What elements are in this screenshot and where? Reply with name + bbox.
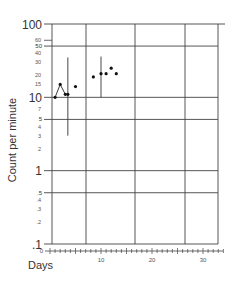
data-point xyxy=(92,75,95,78)
y-tick-label: 1 xyxy=(35,164,42,178)
x-tick-label: 0 xyxy=(40,248,44,254)
y-minor-tick-label: .2 xyxy=(36,219,41,225)
y-minor-tick-label: 7 xyxy=(38,106,41,112)
data-point xyxy=(110,67,113,70)
chart-plot: 100501051.5.160403020157432.4.3.20102030 xyxy=(0,0,234,281)
data-point xyxy=(99,72,102,75)
y-minor-tick-label: 4 xyxy=(38,124,41,130)
data-point xyxy=(74,85,77,88)
y-minor-tick-label: 20 xyxy=(35,72,41,78)
y-minor-tick-label: 40 xyxy=(35,50,41,56)
y-tick-label: 5 xyxy=(39,116,43,122)
y-tick-label: .5 xyxy=(37,190,43,196)
x-axis-label: Days xyxy=(28,259,53,271)
data-point xyxy=(115,72,118,75)
x-tick-label: 20 xyxy=(149,257,156,263)
x-tick-label: 30 xyxy=(200,257,207,263)
data-point xyxy=(59,83,62,86)
y-minor-tick-label: 60 xyxy=(35,37,41,43)
y-tick-label: 10 xyxy=(29,91,43,105)
x-tick-label: 10 xyxy=(98,257,105,263)
y-minor-tick-label: 15 xyxy=(35,81,41,87)
y-tick-label: 100 xyxy=(22,18,42,32)
y-axis-label-text: Count per minute xyxy=(6,98,18,182)
y-minor-tick-label: .4 xyxy=(36,197,41,203)
y-minor-tick-label: 2 xyxy=(38,146,41,152)
data-point xyxy=(54,96,57,99)
y-axis-label: Count per minute xyxy=(3,70,21,210)
y-minor-tick-label: .3 xyxy=(36,206,41,212)
data-point xyxy=(66,93,69,96)
data-point xyxy=(105,72,108,75)
y-minor-tick-label: 3 xyxy=(38,133,41,139)
y-tick-label: 50 xyxy=(35,43,42,49)
y-minor-tick-label: 30 xyxy=(35,59,41,65)
